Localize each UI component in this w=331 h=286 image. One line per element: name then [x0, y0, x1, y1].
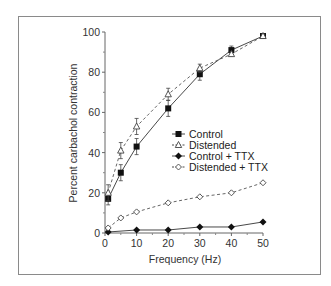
- open-diamond-marker-icon: [260, 180, 266, 186]
- open-diamond-marker-icon: [134, 209, 140, 215]
- diamond-marker-icon: [260, 218, 267, 225]
- x-tick-label: 40: [226, 237, 238, 249]
- diamond-marker-icon: [228, 223, 235, 230]
- y-tick-label: 100: [82, 26, 100, 38]
- diamond-marker-icon: [196, 223, 203, 230]
- diamond-marker-icon: [175, 153, 182, 160]
- series-line: [108, 36, 263, 199]
- open-diamond-marker-icon: [197, 194, 203, 200]
- y-tick-label: 80: [88, 66, 100, 78]
- legend-label: Distended + TTX: [189, 161, 268, 173]
- series-control: [105, 33, 266, 205]
- y-tick-label: 60: [88, 106, 100, 118]
- axes: 02040608010001020304050: [82, 26, 269, 249]
- series-distended-ttx: [105, 180, 266, 231]
- triangle-marker-icon: [133, 123, 139, 129]
- data-series: [105, 33, 267, 236]
- y-tick-label: 0: [94, 227, 100, 239]
- line-chart: 02040608010001020304050 ControlDistended…: [0, 0, 331, 286]
- triangle-marker-icon: [165, 91, 171, 97]
- triangle-marker-icon: [175, 142, 181, 148]
- x-tick-label: 50: [257, 237, 269, 249]
- square-marker-icon: [134, 144, 140, 150]
- triangle-marker-icon: [197, 65, 203, 71]
- x-tick-label: 10: [131, 237, 143, 249]
- triangle-marker-icon: [105, 189, 111, 195]
- x-tick-label: 30: [194, 237, 206, 249]
- series-line: [108, 183, 263, 228]
- series-line: [108, 222, 263, 232]
- x-tick-label: 20: [162, 237, 174, 249]
- series-distended: [105, 33, 266, 201]
- y-axis-label: Percent carbachol contraction: [67, 63, 79, 202]
- square-marker-icon: [118, 170, 124, 176]
- legend-item: Distended + TTX: [172, 161, 268, 173]
- x-axis-label: Frequency (Hz): [149, 253, 221, 265]
- square-marker-icon: [176, 131, 182, 137]
- open-diamond-marker-icon: [176, 164, 182, 170]
- legend: ControlDistendedControl + TTXDistended +…: [172, 128, 268, 173]
- open-diamond-marker-icon: [165, 200, 171, 206]
- diamond-marker-icon: [133, 226, 140, 233]
- open-diamond-marker-icon: [228, 190, 234, 196]
- diamond-marker-icon: [165, 226, 172, 233]
- triangle-marker-icon: [118, 147, 124, 153]
- y-tick-label: 20: [88, 187, 100, 199]
- square-marker-icon: [165, 105, 171, 111]
- x-tick-label: 0: [102, 237, 108, 249]
- y-tick-label: 40: [88, 147, 100, 159]
